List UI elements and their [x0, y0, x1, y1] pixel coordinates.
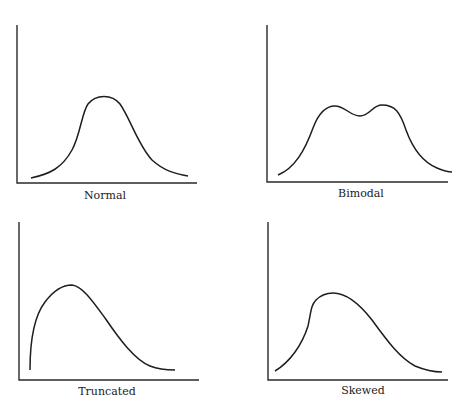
- panel-skewed: Skewed: [0, 0, 470, 411]
- axes: [268, 222, 448, 380]
- label-skewed: Skewed: [341, 384, 385, 397]
- skewed-distribution-plot: [0, 0, 470, 411]
- skewed-curve: [275, 293, 442, 372]
